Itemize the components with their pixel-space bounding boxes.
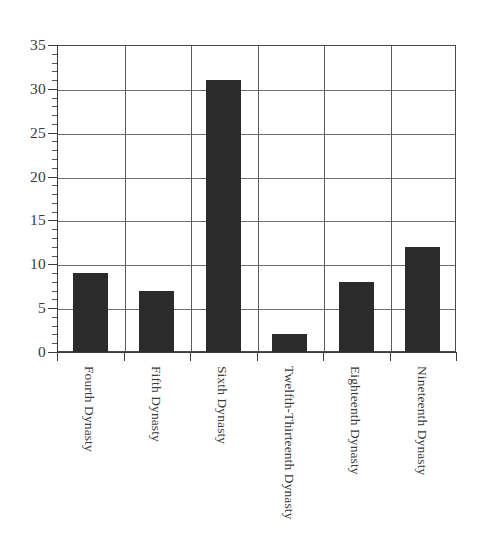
y-tick-label: 20 [16,169,46,185]
bar [206,80,241,352]
y-tick-label: 25 [16,125,46,141]
category-label: Fourth Dynasty [83,366,97,452]
bar [73,273,108,352]
bar [139,291,174,352]
y-minor-tick-6 [52,299,57,300]
y-tick-label: 0 [16,344,46,360]
y-tick-label: 30 [16,81,46,97]
y-minor-tick-13 [52,238,57,239]
y-minor-tick-29 [52,98,57,99]
y-tick-label: 15 [16,212,46,228]
y-minor-tick-23 [52,150,57,151]
category-label: Sixth Dynasty [216,366,230,444]
y-minor-tick-26 [52,124,57,125]
y-major-tick-35 [48,45,57,46]
x-tick-0 [57,352,58,361]
x-tick-6 [456,352,457,361]
y-minor-tick-4 [52,317,57,318]
category-label: Fifth Dynasty [149,366,163,442]
y-major-tick-0 [48,352,57,353]
y-minor-tick-22 [52,159,57,160]
category-label: Eighteenth Dynasty [349,366,363,475]
y-axis-line [57,45,58,352]
y-minor-tick-11 [52,256,57,257]
y-major-tick-15 [48,220,57,221]
bar [272,334,307,352]
y-major-tick-25 [48,133,57,134]
y-major-tick-5 [48,308,57,309]
y-minor-tick-17 [52,203,57,204]
y-minor-tick-19 [52,185,57,186]
y-major-tick-20 [48,177,57,178]
x-tick-5 [390,352,391,361]
y-minor-tick-16 [52,212,57,213]
bar [405,247,440,352]
bar-chart: 05101520253035 Fourth DynastyFifth Dynas… [0,0,478,557]
bars-layer [57,45,456,352]
y-minor-tick-24 [52,141,57,142]
y-tick-label: 5 [16,300,46,316]
y-minor-tick-1 [52,343,57,344]
x-tick-4 [323,352,324,361]
y-minor-tick-3 [52,326,57,327]
y-axis-tick-labels: 05101520253035 [12,0,46,557]
y-minor-tick-33 [52,63,57,64]
y-minor-tick-14 [52,229,57,230]
y-minor-tick-8 [52,282,57,283]
y-minor-tick-34 [52,54,57,55]
y-major-tick-10 [48,264,57,265]
y-minor-tick-2 [52,334,57,335]
x-tick-1 [124,352,125,361]
x-tick-2 [190,352,191,361]
y-minor-tick-18 [52,194,57,195]
category-label: Nineteenth Dynasty [415,366,429,475]
y-minor-tick-12 [52,247,57,248]
y-minor-tick-27 [52,115,57,116]
y-minor-tick-28 [52,106,57,107]
y-minor-tick-31 [52,80,57,81]
y-tick-label: 10 [16,256,46,272]
y-minor-tick-9 [52,273,57,274]
y-minor-tick-21 [52,168,57,169]
bar [339,282,374,352]
x-tick-3 [257,352,258,361]
y-major-tick-30 [48,89,57,90]
y-tick-label: 35 [16,37,46,53]
y-minor-tick-7 [52,291,57,292]
category-label: Twelfth-Thirteenth Dynasty [282,366,296,520]
y-minor-tick-32 [52,71,57,72]
